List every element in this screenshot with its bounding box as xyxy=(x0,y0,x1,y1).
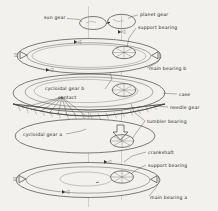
label-contact: contact xyxy=(58,95,76,100)
main-bearing-b-outer-ring xyxy=(17,39,161,74)
label-cycloidal-gear-b: cycloidal gear b xyxy=(45,86,84,91)
label-tumbler-bearing: tumbler bearing xyxy=(147,119,187,124)
sun-gear-body xyxy=(80,17,107,30)
main-bearing-a-outer-ring xyxy=(16,163,160,198)
label-cycloidal-gear-a: cycloidal gear a xyxy=(23,132,62,137)
planet-gear-group xyxy=(108,14,136,29)
main-bearing-b-disc xyxy=(17,39,161,74)
label-case: case xyxy=(179,92,190,97)
diagram-canvas: sun gear planet gear support bearing mai… xyxy=(0,0,218,211)
case-disc xyxy=(13,74,165,112)
label-main-bearing-b: main bearing b xyxy=(149,66,186,71)
main-bearing-a-disc xyxy=(16,163,160,198)
label-support-bearing-bottom: support bearing xyxy=(148,163,187,168)
support-bearing-bottom-icon xyxy=(111,171,134,183)
label-sun-gear: sun gear xyxy=(44,15,66,20)
support-bearing-top-icon xyxy=(113,46,136,58)
label-needle-gear: needle gear xyxy=(170,105,199,110)
label-crankshaft: crankshaft xyxy=(148,150,174,155)
tumbler-bearing-a-icon xyxy=(110,135,134,148)
label-support-bearing-top: support bearing xyxy=(138,25,177,30)
label-planet-gear: planet gear xyxy=(140,12,168,17)
case-outer-ring xyxy=(13,74,165,112)
label-main-bearing-a: main bearing a xyxy=(150,195,187,200)
tumbler-bearing-b-icon xyxy=(112,84,136,97)
sun-gear-group xyxy=(80,16,107,30)
exploded-diagram: sun gear planet gear support bearing mai… xyxy=(0,0,218,211)
